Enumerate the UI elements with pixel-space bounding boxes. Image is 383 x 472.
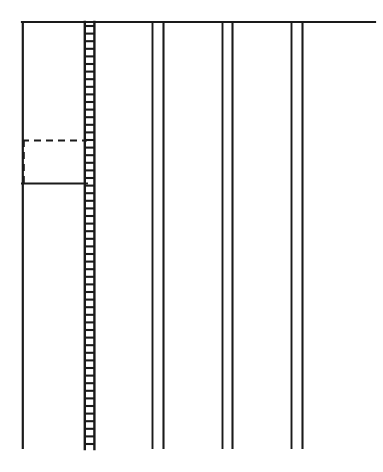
- drawing-background: [0, 0, 383, 472]
- technical-drawing-canvas: [0, 0, 383, 472]
- figure-root: [0, 0, 383, 472]
